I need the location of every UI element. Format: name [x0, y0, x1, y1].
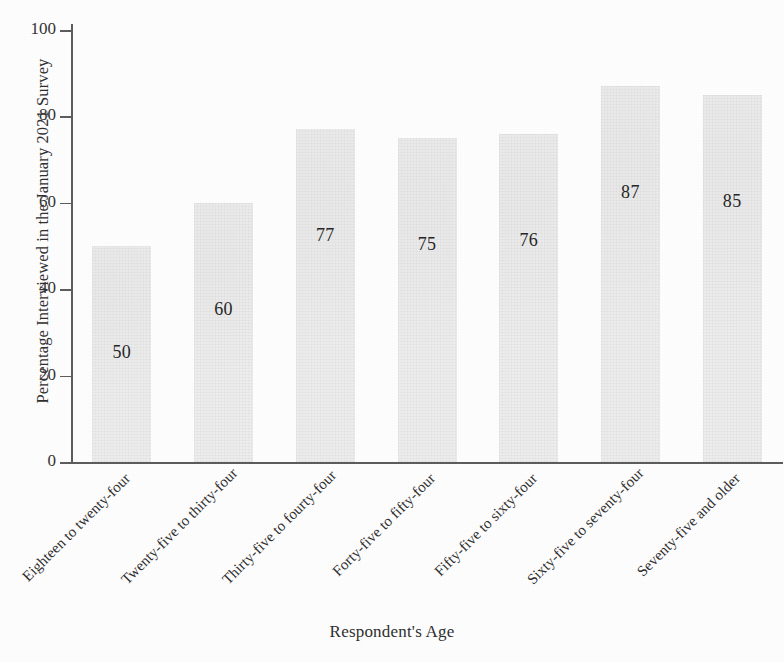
x-axis-category-label: Forty-five to fifty-four — [321, 470, 439, 588]
bar-value-label: 77 — [296, 225, 355, 246]
x-axis-category-label: Sixty-five to seventy-four — [524, 470, 642, 588]
bar: 50 — [92, 246, 151, 462]
x-axis-category-label: Seventy-five and older — [626, 470, 744, 588]
bar-value-label: 85 — [703, 191, 762, 212]
y-axis-tick-label: 100 — [0, 19, 56, 39]
y-axis-tick — [60, 462, 72, 464]
bar: 60 — [194, 203, 253, 462]
x-axis-category-label: Fifty-five to sixty-four — [423, 470, 541, 588]
bar: 76 — [499, 134, 558, 462]
bar: 77 — [296, 129, 355, 462]
y-axis-tick-label: 80 — [0, 105, 56, 125]
bar-value-label: 50 — [92, 342, 151, 363]
y-axis-tick-label: 40 — [0, 278, 56, 298]
bar: 87 — [601, 86, 660, 462]
bar: 85 — [703, 95, 762, 462]
x-axis-spine — [71, 462, 783, 464]
bar-value-label: 87 — [601, 182, 660, 203]
y-axis-tick-label: 20 — [0, 365, 56, 385]
bar-value-label: 75 — [398, 234, 457, 255]
x-axis-category-label: Twenty-five to thirty-four — [117, 470, 235, 588]
bar-value-label: 60 — [194, 299, 253, 320]
bar: 75 — [398, 138, 457, 462]
y-axis-tick-label: 60 — [0, 192, 56, 212]
y-axis-tick-label: 0 — [0, 451, 56, 471]
bar-value-label: 76 — [499, 230, 558, 251]
x-axis-category-label: Thirty-five to fourty-four — [219, 470, 337, 588]
x-axis-category-label: Eighteen to twenty-four — [16, 470, 134, 588]
plot-area: 50607775768785 — [71, 30, 783, 462]
x-axis-title: Respondent's Age — [0, 622, 784, 642]
y-axis-title: Percentage Interviewed in the January 20… — [28, 0, 58, 466]
bar-chart-figure: Percentage Interviewed in the January 20… — [0, 0, 784, 662]
